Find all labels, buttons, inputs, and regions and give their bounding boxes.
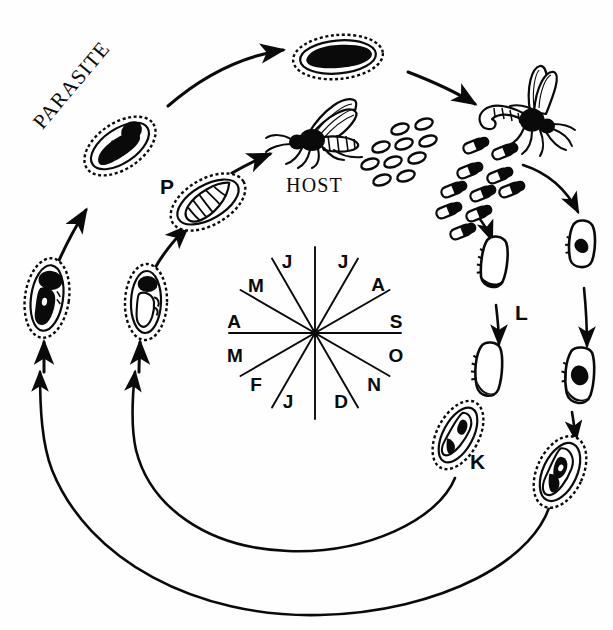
calendar-month-6: D: [334, 391, 348, 413]
host-label: HOST: [286, 174, 343, 197]
calendar-month-0: J: [282, 251, 293, 273]
cocoon-left-mid: [124, 263, 169, 340]
arrow-right-down: [584, 288, 587, 346]
stage-label-k: K: [470, 450, 485, 474]
larva-small: [449, 221, 478, 241]
arrow-l-down: [496, 305, 499, 344]
calendar-month-2: A: [371, 274, 385, 296]
calendar-month-9: M: [227, 345, 243, 367]
larva-small: [491, 141, 520, 161]
calendar-month-8: F: [250, 374, 262, 396]
cocoon-top: [291, 31, 384, 83]
larva-r-upper: [564, 219, 597, 268]
arrow-up-left-inner: [139, 342, 140, 372]
stage-label-l: L: [515, 301, 528, 325]
arrow-p-to-host: [232, 154, 270, 173]
arrow-cocoon-to-p: [155, 226, 188, 268]
cocoon-left-lower: [20, 255, 75, 340]
cocoon-parasite-emerging: [74, 105, 166, 188]
larva-small: [469, 183, 498, 203]
arc-inner-return: [133, 372, 456, 551]
calendar-month-10: A: [227, 311, 241, 333]
larva-small: [486, 165, 515, 185]
calendar-month-11: M: [248, 275, 264, 297]
larva-r-lower: [559, 346, 596, 404]
larva-small: [435, 200, 464, 220]
larva-small: [462, 135, 491, 155]
calendar-month-4: O: [389, 345, 404, 367]
cocoon-pupa-p: [161, 162, 255, 243]
larva-cluster: [435, 135, 527, 241]
arrow-fly-to-right: [523, 165, 578, 212]
cocoon-r-bottom: [523, 428, 597, 516]
arrow-to-top-cocoon: [168, 50, 283, 106]
arrow-cocoon-left-to-parasite: [57, 210, 86, 265]
larva-small: [440, 179, 469, 199]
calendar-month-3: S: [390, 311, 403, 333]
calendar-month-1: J: [338, 251, 349, 273]
stage-label-p: P: [160, 175, 174, 199]
larva-small: [498, 179, 527, 199]
larva-small: [456, 160, 485, 180]
calendar-month-5: N: [367, 374, 381, 396]
host-fly: [266, 99, 362, 168]
egg-cluster: [360, 116, 438, 187]
calendar-hub: [312, 330, 319, 337]
calendar-month-7: J: [283, 391, 294, 413]
larva-l-upper: [474, 234, 510, 288]
larva-l-lower: [469, 341, 504, 397]
life-cycle-diagram: PARASITE HOST P L K JJASONDJFMAM: [0, 0, 613, 630]
parasite-fly: [480, 66, 575, 156]
arrow-top-to-fly: [408, 72, 475, 104]
